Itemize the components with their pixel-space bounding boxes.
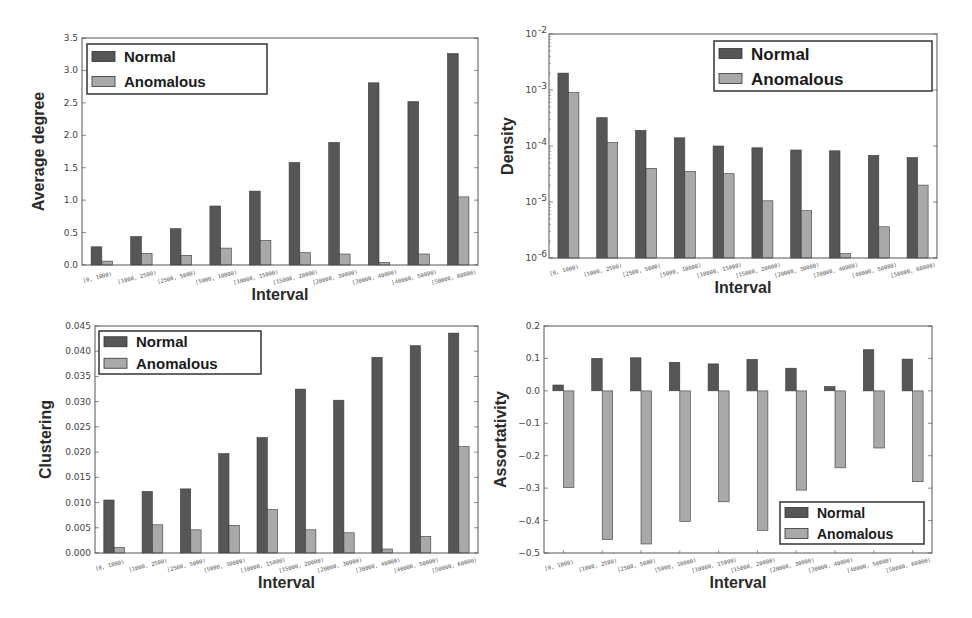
bar-anomalous: [458, 197, 469, 265]
x-tick-label: [1000, 2500): [117, 269, 157, 284]
chart-avg-degree: [0, 1000)[1000, 2500)[2500, 5000)[5000, …: [30, 33, 478, 303]
x-tick-label: [1000, 2500): [583, 262, 623, 277]
y-tick-label: 2.0: [64, 130, 79, 140]
x-tick-label: [50000, 60000): [885, 557, 931, 574]
y-axis-label: Average degree: [30, 92, 47, 212]
bar-anomalous: [563, 391, 574, 488]
bar-anomalous: [913, 391, 924, 482]
x-tick-label: [0, 1000): [94, 559, 124, 572]
x-tick-label: [2500, 5000): [166, 557, 206, 572]
bar-anomalous: [724, 174, 735, 258]
bar-normal: [863, 350, 874, 391]
bar-normal: [791, 150, 802, 258]
bar-anomalous: [835, 391, 846, 468]
bar-anomalous: [796, 391, 807, 490]
x-tick-label: [5000, 10000): [195, 269, 238, 285]
bar-normal: [592, 358, 603, 390]
bar-normal: [142, 492, 152, 554]
y-tick-label: 0.000: [65, 548, 91, 558]
y-tick-exponent: -5: [538, 193, 547, 203]
bar-normal: [131, 237, 142, 266]
bar-normal: [334, 400, 344, 553]
bar-normal: [104, 500, 114, 553]
y-tick-label: 0.015: [65, 472, 91, 482]
y-tick-exponent: -2: [538, 25, 547, 35]
y-tick-label: 10: [526, 141, 538, 151]
y-tick-label: 0.1: [526, 353, 540, 363]
bar-normal: [295, 389, 305, 553]
bar-normal: [752, 148, 763, 258]
bar-anomalous: [602, 391, 613, 540]
y-axis-label: Clustering: [37, 400, 54, 479]
legend-swatch-anomalous: [104, 358, 127, 368]
bar-normal: [786, 368, 797, 391]
legend-label-normal: Normal: [817, 505, 865, 521]
bar-normal: [219, 454, 229, 553]
legend-swatch-anomalous: [719, 74, 742, 84]
y-tick-label: −0.1: [518, 418, 540, 428]
bar-normal: [708, 364, 719, 391]
chart-clustering: [0, 1000)[1000, 2500)[2500, 5000)[5000, …: [37, 321, 478, 591]
bar-normal: [448, 54, 459, 265]
bar-anomalous: [141, 253, 152, 265]
bar-normal: [372, 357, 382, 553]
y-tick-label: 1.0: [64, 195, 79, 205]
bar-normal: [558, 73, 569, 258]
bar-anomalous: [382, 549, 392, 553]
legend: NormalAnomalous: [780, 502, 924, 544]
legend-label-anomalous: Anomalous: [751, 70, 844, 89]
legend-swatch-normal: [104, 337, 127, 347]
chart-assortativity: [0, 1000)[1000, 2500)[2500, 5000)[5000, …: [492, 321, 932, 591]
y-tick-label: 0.0: [526, 386, 541, 396]
bar-anomalous: [229, 525, 239, 553]
y-tick-label: −0.2: [518, 451, 540, 461]
bar-anomalous: [801, 211, 812, 258]
bar-normal: [825, 387, 836, 391]
bar-normal: [170, 229, 181, 265]
x-tick-label: [0, 1000): [82, 271, 112, 284]
legend-label-normal: Normal: [751, 45, 810, 64]
bar-anomalous: [300, 253, 311, 265]
bar-normal: [257, 438, 267, 554]
y-tick-label: 2.5: [64, 98, 78, 108]
legend: NormalAnomalous: [99, 331, 261, 374]
bar-normal: [329, 142, 340, 265]
y-tick-label: 3.5: [64, 33, 78, 43]
bar-anomalous: [719, 391, 730, 502]
bar-anomalous: [918, 185, 929, 258]
chart-density: [0, 1000)[1000, 2500)[2500, 5000)[5000, …: [499, 25, 937, 296]
bar-normal: [830, 151, 841, 258]
bar-anomalous: [646, 168, 657, 258]
bar-normal: [669, 362, 680, 391]
x-tick-label: [0, 1000): [549, 264, 579, 277]
bar-normal: [597, 118, 608, 258]
y-tick-exponent: -4: [538, 137, 547, 147]
bar-normal: [210, 206, 221, 265]
bar-anomalous: [762, 201, 773, 258]
legend-swatch-normal: [785, 508, 808, 518]
y-tick-label: −0.5: [518, 548, 540, 558]
bar-normal: [631, 358, 642, 391]
legend-label-anomalous: Anomalous: [817, 526, 893, 542]
y-tick-label: 10: [526, 29, 538, 39]
x-tick-label: [5000, 10000): [659, 262, 702, 278]
y-tick-label: 0.0: [64, 260, 79, 270]
bar-normal: [713, 146, 724, 258]
figure-canvas: [0, 1000)[1000, 2500)[2500, 5000)[5000, …: [0, 0, 972, 618]
bar-anomalous: [879, 227, 890, 258]
bar-normal: [368, 83, 379, 265]
bar-normal: [408, 102, 419, 265]
x-tick-label: [1000, 2500): [128, 557, 168, 572]
y-tick-label: −0.3: [518, 483, 540, 493]
legend-label-anomalous: Anomalous: [124, 73, 206, 90]
y-axis-label: Density: [499, 117, 516, 175]
x-axis-label: Interval: [252, 286, 309, 303]
bar-anomalous: [221, 248, 232, 265]
y-axis-label: Assortativity: [492, 391, 509, 488]
x-tick-label: [50000, 60000): [890, 262, 936, 279]
y-tick-label: 0.2: [526, 321, 540, 331]
bar-normal: [747, 359, 758, 391]
bar-anomalous: [459, 447, 469, 553]
bar-anomalous: [607, 143, 618, 258]
bar-normal: [636, 130, 647, 258]
